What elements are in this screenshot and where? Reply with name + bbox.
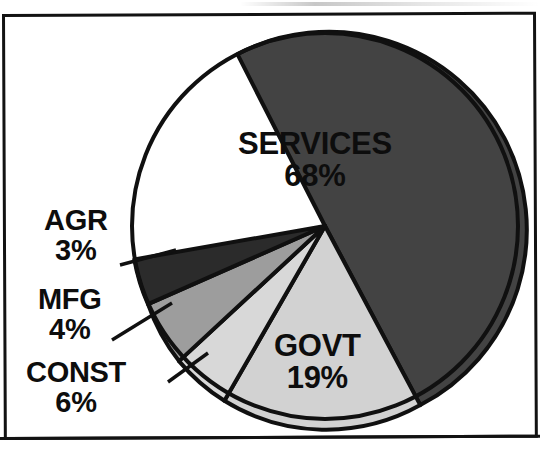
slice-label-agr-name: AGR: [44, 204, 108, 236]
slice-label-services: SERVICES 68%: [238, 128, 392, 191]
slice-label-mfg-percent: 4%: [38, 315, 102, 345]
slice-label-agr: AGR 3%: [44, 206, 108, 265]
slice-label-govt: GOVT 19%: [274, 330, 361, 393]
slice-label-const: CONST 6%: [26, 358, 126, 417]
slice-label-agr-percent: 3%: [44, 236, 108, 266]
slice-label-govt-percent: 19%: [274, 362, 361, 394]
slice-label-const-name: CONST: [26, 356, 126, 388]
slice-label-govt-name: GOVT: [274, 328, 361, 363]
slice-label-services-name: SERVICES: [238, 126, 392, 161]
slice-label-services-percent: 68%: [238, 160, 392, 192]
slice-label-mfg-name: MFG: [38, 283, 102, 315]
slice-label-mfg: MFG 4%: [38, 285, 102, 344]
pie-chart-figure: SERVICES 68% GOVT 19% AGR 3% MFG 4% CONS…: [0, 0, 560, 462]
slice-label-const-percent: 6%: [26, 388, 126, 418]
